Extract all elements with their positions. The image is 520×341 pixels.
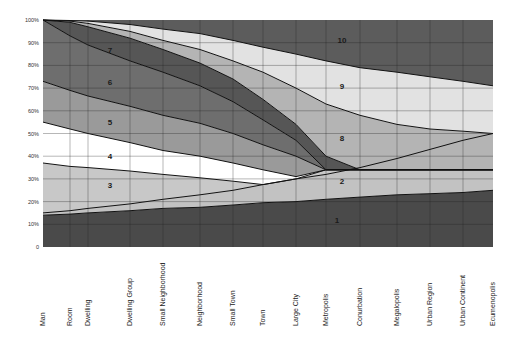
x-axis-label: Metropolis bbox=[322, 293, 330, 326]
y-tick-label: 20% bbox=[28, 199, 39, 205]
y-tick-label: 70% bbox=[28, 85, 39, 91]
x-axis-labels: ManRoomDwellingDwelling GroupSmall Neigh… bbox=[39, 262, 497, 326]
x-axis-label: Dwelling Group bbox=[126, 278, 134, 326]
x-axis-label: Small Neighborhood bbox=[159, 262, 167, 326]
x-axis-label: Urban Continent bbox=[459, 275, 466, 326]
x-axis-label: Small Town bbox=[229, 290, 236, 326]
band-label-3: 3 bbox=[108, 181, 113, 190]
x-axis-label: Room bbox=[66, 307, 73, 326]
band-label-7: 7 bbox=[108, 46, 113, 55]
x-axis-label: Man bbox=[39, 312, 46, 326]
band-label-1: 1 bbox=[335, 216, 340, 225]
y-tick-label: 0 bbox=[36, 244, 39, 250]
band-label-5: 5 bbox=[108, 118, 113, 127]
y-tick-label: 60% bbox=[28, 108, 39, 114]
y-tick-label: 50% bbox=[28, 131, 39, 137]
y-tick-label: 80% bbox=[28, 62, 39, 68]
x-axis-label: Large City bbox=[292, 294, 300, 326]
y-tick-label: 40% bbox=[28, 153, 39, 159]
x-axis-label: Dwelling bbox=[84, 299, 92, 326]
band-label-2: 2 bbox=[340, 177, 345, 186]
y-tick-label: 30% bbox=[28, 176, 39, 182]
band-label-4: 4 bbox=[108, 152, 113, 161]
x-axis-label: Urban Region bbox=[426, 283, 434, 326]
y-tick-label: 100% bbox=[25, 17, 39, 23]
chart: 12345678910 010%20%30%40%50%60%70%80%90%… bbox=[0, 0, 520, 341]
band-label-9: 9 bbox=[340, 82, 345, 91]
band-label-10: 10 bbox=[338, 36, 347, 45]
band-label-8: 8 bbox=[340, 134, 345, 143]
x-axis-label: Neighborhood bbox=[196, 282, 204, 326]
x-axis-label: Ecumenopolis bbox=[489, 282, 497, 326]
y-tick-label: 90% bbox=[28, 40, 39, 46]
x-axis-label: Conurbation bbox=[356, 288, 363, 326]
y-axis-ticks: 010%20%30%40%50%60%70%80%90%100% bbox=[25, 17, 39, 250]
x-axis-label: Megalopolis bbox=[393, 288, 401, 326]
band-label-6: 6 bbox=[108, 78, 113, 87]
x-axis-label: Town bbox=[259, 310, 266, 326]
y-tick-label: 10% bbox=[28, 221, 39, 227]
